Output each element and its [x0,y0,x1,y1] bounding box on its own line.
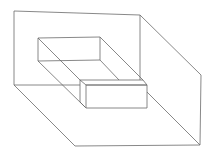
box-to-corner [147,92,200,145]
recess-diag-bottom-right [100,60,119,80]
recess-rect [38,37,100,61]
floor-left-edge [14,85,200,146]
room-corner-diagram [0,0,208,165]
diagram-shapes [14,11,201,146]
recess-diag-bottom-left [38,61,85,107]
recess-diag-top-right [100,37,143,80]
back-wall [14,11,140,80]
box-front [86,85,147,108]
recess-diag-top-left [38,38,80,80]
side-wall-top [140,15,201,145]
box-top [80,80,147,85]
